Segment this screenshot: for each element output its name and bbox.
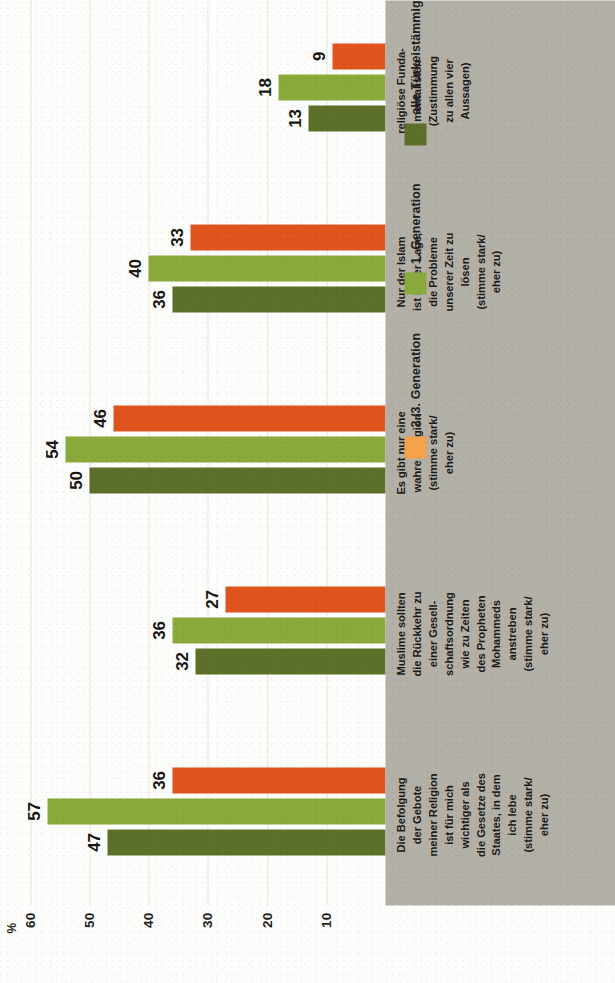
category-label-line: Muslime sollten	[393, 543, 409, 724]
bar-group: 364033	[0, 224, 385, 312]
rotated-figure-container: 605040302010%475736323627505446364033131…	[0, 0, 615, 983]
legend-item[interactable]: 1. Generation	[404, 183, 426, 294]
bar-value-label: 9	[309, 51, 329, 60]
bar-value-label: 46	[90, 409, 110, 427]
bar-value-label: 13	[285, 109, 305, 127]
bar-value-label: 36	[149, 621, 169, 639]
bar-value-label: 27	[202, 590, 222, 608]
bar-value-label: 18	[255, 78, 275, 96]
bar-chart: 605040302010%475736323627505446364033131…	[0, 0, 615, 983]
legend-item[interactable]: 2./3. Generation	[404, 332, 426, 458]
bar-value-label: 36	[149, 771, 169, 789]
bar[interactable]: 36	[172, 767, 385, 793]
category-label: Die Befolgungder Gebotemeiner Religionis…	[393, 724, 552, 905]
category-label-line: Mohammeds	[488, 543, 504, 724]
bar[interactable]: 40	[148, 255, 385, 281]
bar-value-label: 33	[167, 228, 187, 246]
category-label-line: die Gesetze des	[473, 724, 489, 905]
legend-label: 2./3. Generation	[408, 332, 422, 427]
axis-tick-40: 40	[141, 912, 156, 927]
category-label-line: (stimme stark/	[520, 724, 536, 905]
category-label-line: die Rückkehr zu	[409, 543, 425, 724]
legend-swatch-icon	[404, 272, 426, 294]
bar-value-label: 40	[125, 259, 145, 277]
chart-legend: 2./3. Generation1. Generationalle Türkei…	[404, 0, 426, 458]
category-label-line: die Probleme	[425, 181, 441, 362]
axis-tick-10: 10	[318, 912, 333, 927]
category-label-line: eher zu)	[488, 181, 504, 362]
category-label-line: eher zu)	[441, 362, 457, 543]
category-label-line: (stimme stark/	[425, 362, 441, 543]
axis-unit-label: %	[4, 922, 18, 933]
legend-label: 1. Generation	[408, 183, 422, 263]
bar-value-label: 47	[84, 833, 104, 851]
category-label-line: Aussagen)	[457, 0, 473, 181]
bar[interactable]: 13	[308, 105, 385, 131]
plot-area: 605040302010%475736323627505446364033131…	[0, 0, 385, 905]
category-label: Muslime solltendie Rückkehr zueiner Gese…	[393, 543, 552, 724]
category-label-line: wie zu Zeiten	[457, 543, 473, 724]
category-label-line: lösen	[457, 181, 473, 362]
legend-swatch-icon	[404, 436, 426, 458]
category-label-line: (stimme stark/	[520, 543, 536, 724]
bar[interactable]: 36	[172, 617, 385, 643]
bar[interactable]: 18	[278, 74, 385, 100]
bar[interactable]: 32	[195, 648, 385, 674]
bar[interactable]: 50	[89, 467, 385, 493]
bar[interactable]: 46	[113, 405, 385, 431]
axis-tick-50: 50	[81, 912, 96, 927]
category-label-line: zu allen vier	[441, 0, 457, 181]
category-label-line: meiner Religion	[425, 724, 441, 905]
category-label-line: ist für mich	[441, 724, 457, 905]
bar-group: 505446	[0, 405, 385, 493]
bar-group: 323627	[0, 586, 385, 674]
bar[interactable]: 54	[65, 436, 385, 462]
category-label-line: eher zu)	[536, 724, 552, 905]
category-label-line: schaftsordnung	[441, 543, 457, 724]
category-label-line: eher zu)	[536, 543, 552, 724]
category-label-line: der Gebote	[409, 724, 425, 905]
category-label-line: einer Gesell-	[425, 543, 441, 724]
bar-value-label: 50	[66, 471, 86, 489]
axis-tick-20: 20	[259, 912, 274, 927]
axis-tick-30: 30	[200, 912, 215, 927]
bar-value-label: 32	[172, 652, 192, 670]
figure-page: 605040302010%475736323627505446364033131…	[0, 0, 615, 983]
bar[interactable]: 57	[47, 798, 385, 824]
category-label-line: anstreben	[504, 543, 520, 724]
category-label-line: (Zustimmung	[425, 0, 441, 181]
legend-label: alle Türkeistämmigen	[408, 0, 422, 114]
legend-swatch-icon	[404, 123, 426, 145]
category-label-line: ich lebe	[504, 724, 520, 905]
bar[interactable]: 9	[332, 43, 385, 69]
category-label-line: Die Befolgung	[393, 724, 409, 905]
bar[interactable]: 33	[190, 224, 385, 250]
bar[interactable]: 27	[225, 586, 385, 612]
category-label-line: unserer Zeit zu	[441, 181, 457, 362]
bar-value-label: 57	[24, 802, 44, 820]
axis-tick-60: 60	[22, 912, 37, 927]
category-label-line: Staates, in dem	[488, 724, 504, 905]
category-label-line: des Propheten	[473, 543, 489, 724]
legend-item[interactable]: alle Türkeistämmigen	[404, 0, 426, 145]
bar[interactable]: 36	[172, 286, 385, 312]
bar[interactable]: 47	[107, 829, 385, 855]
category-label-line: wichtiger als	[457, 724, 473, 905]
bar-group: 13189	[0, 43, 385, 131]
category-label-line: (stimme stark/	[473, 181, 489, 362]
bar-value-label: 54	[42, 440, 62, 458]
bar-group: 475736	[0, 767, 385, 855]
bar-value-label: 36	[149, 290, 169, 308]
